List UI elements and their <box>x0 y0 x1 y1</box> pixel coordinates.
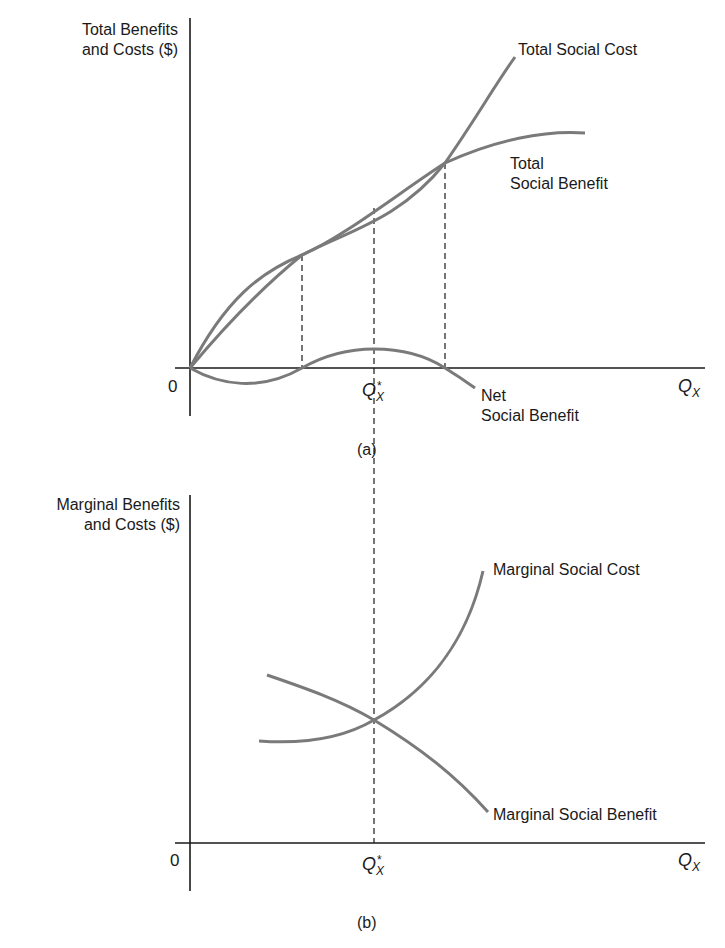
panel-a-q-star-label: QX* <box>362 376 382 407</box>
total-social-benefit-label: Total Social Benefit <box>510 154 608 194</box>
total-social-cost-label: Total Social Cost <box>518 40 637 60</box>
q-sub: X <box>692 860 700 874</box>
q-letter: Q <box>362 380 376 400</box>
nsb-label-line2: Social Benefit <box>481 406 579 426</box>
panel-a-caption: (a) <box>357 440 377 460</box>
panel-b-x-axis-label: QX <box>678 850 700 877</box>
marginal-social-benefit-label: Marginal Social Benefit <box>493 805 657 825</box>
net-social-benefit-label: Net Social Benefit <box>481 386 579 426</box>
q-sub: X <box>692 386 700 400</box>
marginal-social-cost-label: Marginal Social Cost <box>493 560 640 580</box>
panel-b-caption: (b) <box>357 913 377 933</box>
marginal-social-benefit-curve <box>267 675 488 812</box>
panel-a-origin-label: 0 <box>168 377 177 397</box>
tsb-label-line1: Total <box>510 154 608 174</box>
panel-a-y-label-line2: and Costs ($) <box>0 40 178 60</box>
panel-a-x-axis-label: QX <box>678 376 700 403</box>
panel-b-origin-label: 0 <box>170 851 179 871</box>
q-letter: Q <box>678 376 692 396</box>
q-letter: Q <box>678 850 692 870</box>
panel-b-q-star-label: QX* <box>362 850 382 881</box>
q-letter: Q <box>362 854 376 874</box>
tsb-label-line2: Social Benefit <box>510 174 608 194</box>
panel-a-y-axis-label: Total Benefits and Costs ($) <box>0 20 178 60</box>
total-social-cost-curve <box>190 57 515 368</box>
nsb-label-line1: Net <box>481 386 579 406</box>
panel-b-y-label-line2: and Costs ($) <box>0 515 180 535</box>
marginal-social-cost-curve <box>259 571 483 742</box>
q-star-sup: * <box>377 379 382 393</box>
panel-b-y-label-line1: Marginal Benefits <box>0 495 180 515</box>
q-star-sup: * <box>377 853 382 867</box>
panel-a-y-label-line1: Total Benefits <box>0 20 178 40</box>
panel-b-y-axis-label: Marginal Benefits and Costs ($) <box>0 495 180 535</box>
